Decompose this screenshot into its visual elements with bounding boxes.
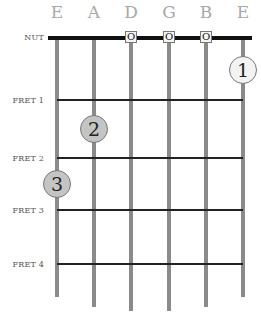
finger-3-marker: 3 xyxy=(43,170,71,198)
fret-1-label: FRET 1 xyxy=(0,96,44,105)
nut-label: NUT xyxy=(0,33,44,42)
string-g xyxy=(167,38,171,311)
fret-line-2 xyxy=(57,157,243,159)
finger-1-marker: 1 xyxy=(229,56,257,84)
string-name-low-e: E xyxy=(47,2,67,22)
fret-3-label: FRET 3 xyxy=(0,206,44,215)
fret-line-4 xyxy=(57,263,243,265)
string-name-a: A xyxy=(84,2,104,22)
string-a xyxy=(92,38,96,307)
fret-line-1 xyxy=(57,99,243,101)
fret-line-3 xyxy=(57,209,243,211)
fret-2-label: FRET 2 xyxy=(0,154,44,163)
string-d xyxy=(129,38,133,311)
fret-4-label: FRET 4 xyxy=(0,260,44,269)
nut-bar xyxy=(48,36,252,40)
string-low-e xyxy=(55,38,59,297)
string-name-g: G xyxy=(159,2,179,22)
string-name-high-e: E xyxy=(233,2,253,22)
open-string-marker-d: O xyxy=(125,31,137,43)
open-string-marker-g: O xyxy=(163,31,175,43)
string-b xyxy=(204,38,208,307)
string-name-d: D xyxy=(121,2,141,22)
finger-2-marker: 2 xyxy=(80,115,108,143)
string-name-b: B xyxy=(196,2,216,22)
open-string-marker-b: O xyxy=(200,31,212,43)
